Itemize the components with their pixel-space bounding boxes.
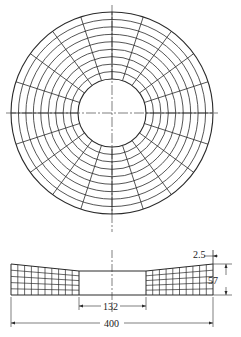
mesh-radial-line bbox=[144, 124, 208, 145]
top-view-mesh bbox=[6, 5, 218, 232]
mesh-radial-line bbox=[132, 31, 171, 85]
dimension-lines bbox=[11, 250, 232, 327]
mesh-radial-line bbox=[132, 141, 171, 195]
mesh-radial-line bbox=[16, 82, 80, 103]
arrow-outer-left bbox=[11, 322, 15, 325]
arrow-offset bbox=[213, 255, 217, 258]
mesh-radial-line bbox=[53, 31, 92, 85]
mesh-radial-line bbox=[140, 54, 194, 93]
arrow-outer-right bbox=[209, 322, 213, 325]
mesh-radial-line bbox=[81, 17, 102, 81]
mesh-radial-line bbox=[30, 54, 84, 93]
arrow-thickness-top bbox=[225, 264, 228, 268]
dim-offset-label: 2.5 bbox=[193, 249, 206, 260]
mesh-radial-line bbox=[140, 133, 194, 172]
dim-thickness-label: 57 bbox=[208, 275, 218, 286]
arrow-inner-left bbox=[79, 305, 83, 308]
mesh-radial-line bbox=[53, 141, 92, 195]
mesh-radial-line bbox=[81, 145, 102, 209]
dim-inner-diameter-label: 132 bbox=[103, 301, 118, 312]
mesh-radial-line bbox=[30, 133, 84, 172]
engineering-drawing: 2.5 57 132 400 bbox=[0, 0, 241, 337]
mesh-radial-line bbox=[144, 82, 208, 103]
dim-outer-diameter-label: 400 bbox=[104, 318, 119, 329]
arrow-inner-right bbox=[142, 305, 146, 308]
mesh-radial-line bbox=[123, 145, 144, 209]
mesh-radial-line bbox=[16, 124, 80, 145]
arrow-thickness-bottom bbox=[225, 291, 228, 295]
mesh-radial-line bbox=[123, 17, 144, 81]
